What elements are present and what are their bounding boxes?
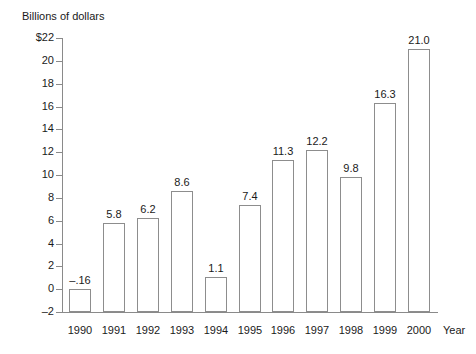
y-axis-tick [56,107,62,108]
y-axis-tick-label: 14 [2,123,54,134]
y-axis-line [62,38,63,313]
y-axis-tick-label-wrap: 16 [0,101,54,112]
y-axis-tick [56,312,62,313]
y-axis-tick [56,84,62,85]
bar [408,49,430,312]
bar [239,205,261,312]
y-axis-tick [56,244,62,245]
y-axis-tick [56,152,62,153]
y-axis-tick-label-wrap: 10 [0,169,54,180]
y-axis-tick-label-wrap: 18 [0,78,54,89]
bar-value-label: 8.6 [157,176,207,188]
bar-chart: Billions of dollars $2220181614121086420… [0,0,476,354]
y-axis-tick-label: –2 [2,306,54,317]
y-axis-tick [56,175,62,176]
y-axis-tick [56,266,62,267]
bar [272,160,294,312]
y-axis-tick-label: 2 [2,260,54,271]
y-axis-tick-label-wrap: 0 [0,283,54,294]
bar [306,150,328,312]
bar [205,277,227,312]
y-axis-tick-label: $22 [2,32,54,43]
y-axis-tick-label-wrap: 6 [0,215,54,226]
bar [69,289,91,312]
bar [137,218,159,312]
y-axis-title: Billions of dollars [22,10,105,23]
y-axis-tick-label: 6 [2,215,54,226]
y-axis-tick-label: 16 [2,101,54,112]
bar [340,177,362,312]
bar-value-label: –.16 [55,274,105,286]
bar [103,223,125,312]
x-axis-title: Year [443,324,465,337]
y-axis-tick-label: 0 [2,283,54,294]
bar-value-label: 21.0 [394,34,444,46]
bar [374,103,396,312]
y-axis-tick-label: 10 [2,169,54,180]
y-axis-tick [56,221,62,222]
y-axis-tick [56,129,62,130]
y-axis-tick [56,61,62,62]
y-axis-tick-label-wrap: 14 [0,123,54,134]
bar [171,191,193,312]
bar-value-label: 7.4 [225,190,275,202]
y-axis-tick [56,198,62,199]
y-axis-tick-label-wrap: $22 [0,32,54,43]
x-axis-line [62,312,438,313]
y-axis-tick-label: 18 [2,78,54,89]
bar-value-label: 12.2 [292,135,342,147]
y-axis-tick-label: 4 [2,238,54,249]
bar-value-label: 1.1 [191,262,241,274]
y-axis-tick [56,38,62,39]
bar-value-label: 16.3 [360,88,410,100]
y-axis-tick-label-wrap: 20 [0,55,54,66]
y-axis-tick-label: 12 [2,146,54,157]
bar-value-label: 9.8 [326,162,376,174]
bar-value-label: 6.2 [123,203,173,215]
y-axis-tick [56,289,62,290]
x-axis-tick-label: 2000 [394,324,444,336]
y-axis-tick-label-wrap: 12 [0,146,54,157]
y-axis-tick-label: 20 [2,55,54,66]
y-axis-tick-label-wrap: 4 [0,238,54,249]
y-axis-tick-label-wrap: 2 [0,260,54,271]
y-axis-tick-label-wrap: –2 [0,306,54,317]
y-axis-tick-label-wrap: 8 [0,192,54,203]
y-axis-tick-label: 8 [2,192,54,203]
